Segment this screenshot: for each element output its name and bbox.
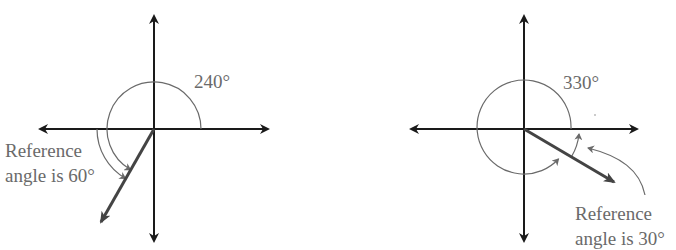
- reference-label-line1: Reference: [5, 140, 82, 161]
- reference-label-line1: Reference: [575, 203, 652, 224]
- reference-label-line2: angle is 30°: [575, 228, 665, 249]
- reference-arc-60: [97, 129, 126, 178]
- figure-240-degrees: 240° Reference angle is 60°: [5, 16, 268, 241]
- terminal-ray-330: [524, 129, 614, 182]
- stray-dot: [594, 114, 596, 116]
- angle-label-240: 240°: [194, 71, 230, 92]
- angle-label-330: 330°: [563, 72, 599, 93]
- reference-label-line2: angle is 60°: [5, 165, 95, 186]
- figure-330-degrees: 330° Reference angle is 30°: [411, 16, 665, 249]
- reference-arc-30: [572, 134, 579, 157]
- reference-angle-figures: 240° Reference angle is 60° 330° Referen…: [0, 0, 676, 250]
